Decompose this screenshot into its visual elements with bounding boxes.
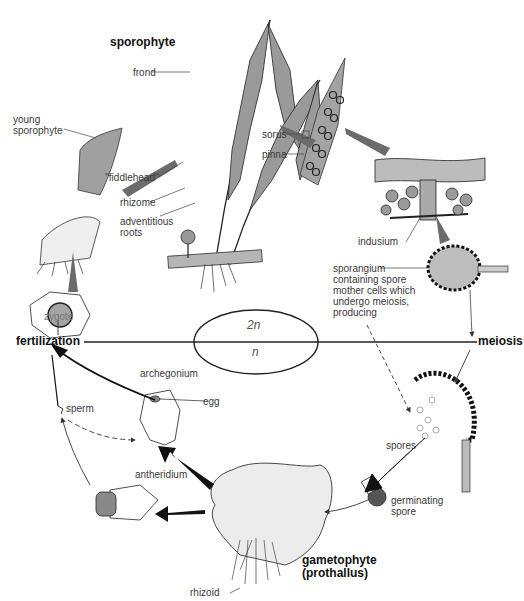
rhizome-icon	[168, 250, 263, 269]
label-pinna: pinna	[262, 149, 286, 160]
opened-sporangium-icon	[415, 373, 474, 440]
gametophyte-icon	[211, 463, 332, 565]
stage-label-meiosis: meiosis	[478, 335, 523, 348]
label-rhizoid: rhizoid	[190, 587, 219, 598]
sorus-cross-section-icon	[375, 158, 485, 220]
label-frond: frond	[133, 67, 156, 78]
young-sporophyte-icon	[78, 128, 122, 195]
label-germinating-spore: germinating spore	[391, 495, 443, 517]
archegonium-icon	[140, 390, 180, 445]
antheridium-icon	[96, 485, 158, 520]
label-egg: egg	[203, 396, 220, 407]
fiddlehead-icon	[181, 230, 195, 244]
arrow-gametophyte-to-archegonium-icon	[158, 446, 214, 490]
label-indusium: indusium	[358, 236, 398, 247]
fern-life-cycle-artwork	[0, 0, 524, 601]
label-rhizome: rhizome	[120, 197, 156, 208]
label-antheridium: antheridium	[135, 469, 187, 480]
stage-label-gametophyte: gametophyte (prothallus)	[302, 554, 377, 580]
arrow-sorus-to-sporangium-icon	[436, 216, 450, 244]
label-archegonium: archegonium	[140, 368, 198, 379]
stage-label-sporophyte: sporophyte	[110, 36, 175, 49]
label-haploid: n	[252, 347, 259, 358]
sporangium-icon	[428, 246, 480, 290]
stage-label-fertilization: fertilization	[16, 335, 80, 348]
arrow-pinna-to-sorus-icon	[345, 128, 390, 156]
label-diploid: 2n	[247, 320, 260, 331]
label-zygote: zygote	[44, 311, 73, 322]
arrow-gametophyte-to-antheridium-icon	[155, 506, 205, 522]
label-spores: spores	[386, 440, 416, 451]
adventitious-roots-icon	[201, 263, 236, 292]
label-sporangium: sporangium containing spore mother cells…	[333, 263, 415, 318]
label-sorus: sorus	[262, 129, 286, 140]
label-young-sporophyte: young sporophyte	[13, 114, 62, 136]
label-adventitious-roots: adventitious roots	[120, 216, 173, 238]
label-sperm: sperm	[66, 403, 94, 414]
spores-icon	[417, 397, 439, 439]
label-fiddlehead: ''fiddlehead''	[105, 172, 159, 183]
sperm-icon	[58, 406, 63, 414]
